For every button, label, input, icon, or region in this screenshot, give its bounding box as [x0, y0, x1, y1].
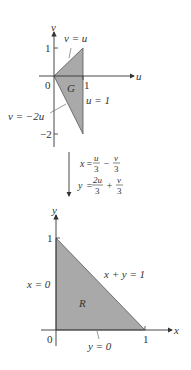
- tick-label-y-1: 1: [47, 232, 53, 244]
- v-axis-label: v: [51, 21, 56, 33]
- line-v-eq-neg2u-label: v = −2u: [8, 110, 45, 122]
- line-u-eq-1-label: u = 1: [86, 94, 110, 106]
- eq-x-term2-num: v: [114, 153, 118, 163]
- tick-label-u-1: 1: [84, 79, 90, 91]
- eq-x-term1-num: u: [94, 153, 99, 163]
- line-y-eq-0-label: y = 0: [87, 340, 112, 352]
- origin-label: 0: [45, 79, 51, 91]
- eq-x-lhs: x: [79, 158, 85, 169]
- region-r-label: R: [78, 297, 86, 309]
- svg-text:=: =: [86, 180, 93, 191]
- top-plot: v u 0 1 1 −2 G v = u v = −2u u = 1: [8, 21, 142, 147]
- region-g-label: G: [67, 82, 75, 94]
- eq-y-op: +: [106, 180, 113, 191]
- x-axis-label: x: [173, 324, 179, 336]
- bottom-plot: y x 0 1 1 R x = 0 y = 0 x + y = 1: [26, 204, 179, 352]
- eq-y-term2-den: 3: [117, 186, 122, 196]
- eq-y-term2-num: v: [117, 175, 121, 185]
- line-x-eq-0-label: x = 0: [26, 278, 51, 290]
- u-axis-label: u: [136, 70, 142, 82]
- eq-y-term1-num: 2u: [93, 175, 103, 185]
- diagram-canvas: v u 0 1 1 −2 G v = u v = −2u u = 1 x = u…: [0, 0, 191, 370]
- eq-x-term2-den: 3: [114, 164, 119, 174]
- svg-text:=: =: [86, 158, 93, 169]
- region-r: [56, 238, 145, 330]
- tick-label-v-1: 1: [45, 42, 51, 54]
- line-v-eq-u-label: v = u: [64, 32, 88, 44]
- eq-y-lhs: y: [77, 180, 83, 191]
- origin-label: 0: [47, 333, 53, 345]
- tick-label-x-1: 1: [143, 333, 149, 345]
- line-x-plus-y-eq-1-label: x + y = 1: [103, 268, 145, 280]
- transformation: x = u 3 − v 3 y = 2u 3 + v 3: [69, 152, 123, 196]
- eq-x-term1-den: 3: [94, 164, 99, 174]
- tick-label-v-neg2: −2: [40, 128, 52, 140]
- eq-y-term1-den: 3: [95, 186, 100, 196]
- eq-x-op: −: [103, 158, 110, 169]
- y-axis-label: y: [51, 204, 57, 216]
